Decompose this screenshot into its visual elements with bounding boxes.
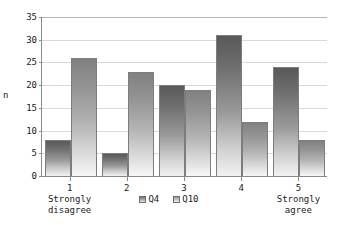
bar-group-5 (270, 17, 327, 176)
bar-q10-3[interactable] (185, 90, 211, 176)
bar-q4-2[interactable] (102, 153, 128, 176)
y-tick-label-10: 10 (26, 126, 37, 136)
y-tick-label-35: 35 (26, 12, 37, 22)
plot-area: 05101520253035 (41, 17, 327, 177)
x-tick-cell-1 (41, 177, 98, 181)
bar-q4-3[interactable] (159, 85, 185, 176)
bar-q10-5[interactable] (299, 140, 325, 176)
y-tick-label-0: 0 (32, 171, 37, 181)
bar-q4-5[interactable] (273, 67, 299, 176)
y-tick-label-20: 20 (26, 80, 37, 90)
bar-q10-2[interactable] (128, 72, 154, 176)
x-category-number-3: 3 (155, 183, 212, 194)
bar-q10-1[interactable] (71, 58, 97, 176)
bar-chart-figure: n 05101520253035 1Strongly disagree2345S… (0, 0, 338, 225)
legend-swatch-q10-icon (173, 196, 180, 203)
bar-group-3 (156, 17, 213, 176)
x-tick-cell-3 (155, 177, 212, 181)
y-tick-label-5: 5 (32, 148, 37, 158)
bar-q4-4[interactable] (216, 35, 242, 176)
bar-q4-1[interactable] (45, 140, 71, 176)
x-category-number-4: 4 (213, 183, 270, 194)
y-tick-label-15: 15 (26, 103, 37, 113)
x-tick-cell-5 (270, 177, 327, 181)
x-tick-cell-4 (213, 177, 270, 181)
x-tick-mark-3 (184, 177, 185, 181)
y-tick-label-30: 30 (26, 35, 37, 45)
legend-label-q10: Q10 (182, 194, 198, 204)
x-tick-mark-5 (298, 177, 299, 181)
legend-swatch-q4-icon (139, 196, 146, 203)
y-tick-label-25: 25 (26, 57, 37, 67)
legend-item-q10[interactable]: Q10 (173, 194, 198, 204)
x-tick-cell-2 (98, 177, 155, 181)
bar-group-1 (42, 17, 99, 176)
y-axis-title: n (3, 90, 8, 100)
bar-q10-4[interactable] (242, 122, 268, 177)
chart-legend: Q4Q10 (0, 194, 338, 204)
x-tick-mark-2 (127, 177, 128, 181)
x-category-number-5: 5 (270, 183, 327, 194)
x-axis-ticks (41, 177, 327, 181)
bar-series-layer (42, 17, 327, 176)
bar-group-4 (213, 17, 270, 176)
x-tick-mark-1 (70, 177, 71, 181)
bar-group-2 (99, 17, 156, 176)
x-category-number-1: 1 (41, 183, 98, 194)
legend-item-q4[interactable]: Q4 (139, 194, 159, 204)
legend-label-q4: Q4 (148, 194, 159, 204)
x-tick-mark-4 (241, 177, 242, 181)
x-category-number-2: 2 (98, 183, 155, 194)
